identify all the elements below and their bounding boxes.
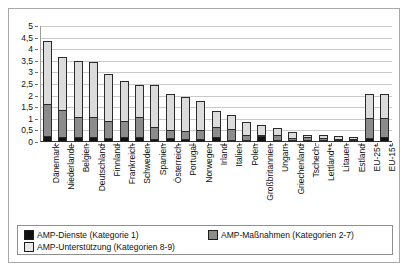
bar-segment bbox=[43, 104, 52, 136]
x-axis-tick-label: Estland bbox=[358, 144, 367, 218]
x-axis: DänemarkNiederlandeBelgienDeutschlandFin… bbox=[40, 144, 392, 224]
bar-segment bbox=[257, 136, 266, 142]
black-square-icon bbox=[24, 230, 34, 240]
bar-column bbox=[288, 132, 297, 142]
bar-segment bbox=[104, 138, 113, 142]
x-axis-tick-label: Finnland bbox=[113, 144, 122, 218]
bar-segment bbox=[135, 85, 144, 117]
bar-column bbox=[212, 111, 221, 142]
y-axis-tick-mark bbox=[35, 107, 38, 108]
bar-column bbox=[58, 57, 67, 142]
x-axis-tick-label: Litauen bbox=[342, 144, 351, 218]
y-axis-tick-mark bbox=[35, 130, 38, 131]
bar-column bbox=[150, 85, 159, 142]
bar-segment bbox=[212, 127, 221, 137]
bar-column bbox=[242, 122, 251, 142]
y-axis-tick-label: 2 bbox=[28, 92, 33, 100]
bar-series-group bbox=[40, 26, 392, 142]
x-axis-tick-label: Frankreich bbox=[128, 144, 137, 218]
x-axis-tick-label: EU-15* bbox=[388, 144, 397, 218]
bar-column bbox=[104, 74, 113, 142]
bar-segment bbox=[120, 121, 129, 137]
legend-row-2: AMP-Maßnahmen (Kategorien 2-7) bbox=[208, 230, 354, 240]
bar-segment bbox=[181, 139, 190, 142]
bar-segment bbox=[380, 118, 389, 138]
bar-column bbox=[196, 101, 205, 142]
legend-label-amp-dienste: AMP-Dienste (Kategorie 1) bbox=[37, 231, 139, 240]
bar-segment bbox=[150, 139, 159, 142]
legend-item-amp-massnahmen: AMP-Maßnahmen (Kategorien 2-7) bbox=[208, 230, 354, 240]
y-axis-tick-label: 3 bbox=[28, 68, 33, 76]
x-axis-tick-label: Großbritannien bbox=[266, 144, 275, 218]
bar-segment bbox=[58, 137, 67, 142]
gray-square-icon bbox=[208, 230, 218, 240]
y-axis-tick-mark bbox=[35, 26, 38, 27]
bar-segment bbox=[288, 140, 297, 142]
legend-item-amp-unterstuetzung: AMP-Unterstützung (Kategorien 8-9) bbox=[24, 242, 175, 252]
bar-column bbox=[257, 125, 266, 142]
bar-segment bbox=[196, 139, 205, 142]
bar-segment bbox=[380, 137, 389, 142]
y-axis-tick-mark bbox=[35, 96, 38, 97]
legend-item-amp-dienste: AMP-Dienste (Kategorie 1) bbox=[24, 230, 139, 240]
legend-row-1: AMP-Dienste (Kategorie 1) bbox=[24, 230, 139, 240]
bar-column bbox=[43, 41, 52, 142]
bar-column bbox=[181, 97, 190, 142]
y-axis-tick-mark bbox=[35, 49, 38, 50]
bar-segment bbox=[365, 138, 374, 142]
x-axis-tick-label: Irland bbox=[220, 144, 229, 218]
bar-segment bbox=[120, 81, 129, 121]
y-axis-tick-label: 0 bbox=[28, 138, 33, 146]
y-axis-tick-mark bbox=[35, 61, 38, 62]
bar-segment bbox=[89, 62, 98, 117]
bar-segment bbox=[89, 137, 98, 142]
legend-label-amp-unterstuetzung: AMP-Unterstützung (Kategorien 8-9) bbox=[37, 243, 175, 252]
bar-segment bbox=[181, 131, 190, 139]
bar-segment bbox=[150, 127, 159, 139]
y-axis-tick-mark bbox=[35, 142, 38, 143]
y-axis-tick-label: 4,5 bbox=[21, 34, 33, 42]
bar-segment bbox=[365, 118, 374, 137]
bar-segment bbox=[334, 140, 343, 142]
bar-segment bbox=[227, 140, 236, 142]
y-axis-tick-mark bbox=[35, 38, 38, 39]
x-axis-tick-label: Tschech. bbox=[312, 144, 321, 218]
x-axis-tick-label: Dänemark bbox=[52, 144, 61, 218]
bar-segment bbox=[196, 130, 205, 139]
bar-segment bbox=[74, 117, 83, 138]
bar-segment bbox=[120, 137, 129, 142]
y-axis-tick-label: 1 bbox=[28, 115, 33, 123]
x-axis-tick-label: Portugal bbox=[189, 144, 198, 218]
bar-column bbox=[135, 85, 144, 142]
bar-segment bbox=[181, 97, 190, 131]
y-axis-tick-label: 4 bbox=[28, 45, 33, 53]
x-axis-tick-label: Italien bbox=[235, 144, 244, 218]
x-axis-tick-label: Niederlande bbox=[67, 144, 76, 218]
x-axis-tick-label: Polen bbox=[251, 144, 260, 218]
bar-segment bbox=[227, 115, 236, 129]
bar-segment bbox=[43, 41, 52, 104]
y-axis-tick-mark bbox=[35, 72, 38, 73]
bar-segment bbox=[166, 138, 175, 142]
light-gray-square-icon bbox=[24, 242, 34, 252]
bar-segment bbox=[349, 140, 358, 142]
bar-column bbox=[120, 81, 129, 142]
bar-segment bbox=[273, 128, 282, 135]
x-axis-tick-label: Spanien bbox=[159, 144, 168, 218]
x-axis-tick-label: Belgien bbox=[82, 144, 91, 218]
bar-column bbox=[319, 135, 328, 142]
y-axis-tick-label: 1,5 bbox=[21, 103, 33, 111]
y-axis: 54,543,532,521,510,50 bbox=[9, 22, 38, 146]
bar-column bbox=[273, 128, 282, 142]
bar-segment bbox=[273, 140, 282, 142]
x-axis-tick-label: EU-25* bbox=[373, 144, 382, 218]
bar-segment bbox=[365, 94, 374, 118]
x-axis-tick-label: Lettland** bbox=[327, 144, 336, 218]
bar-segment bbox=[150, 85, 159, 127]
bar-segment bbox=[58, 110, 67, 138]
bar-column bbox=[334, 136, 343, 142]
bar-column bbox=[89, 62, 98, 142]
bar-segment bbox=[135, 137, 144, 142]
bar-column bbox=[349, 137, 358, 142]
bar-segment bbox=[74, 137, 83, 142]
